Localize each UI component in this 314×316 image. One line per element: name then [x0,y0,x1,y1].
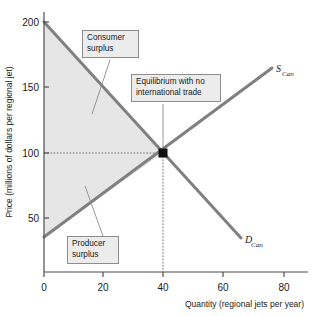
x-tick-label-20: 20 [97,282,109,293]
y-axis-title: Price (millions of dollars per regional … [4,66,14,217]
y-tick-label-50: 50 [28,213,40,224]
producer-surplus-callout: Producer surplus [67,236,119,264]
x-tick-label-40: 40 [157,282,169,293]
supply-curve-sublabel: Can [282,70,294,78]
consumer-surplus-callout: Consumer surplus [82,30,139,58]
y-tick-label-150: 150 [22,82,39,93]
y-tick-label-100: 100 [22,148,39,159]
x-tick-label-0: 0 [41,282,47,293]
x-axis-title: Quantity (regional jets per year) [185,299,304,309]
demand-curve-sublabel: Can [251,241,263,249]
y-tick-label-200: 200 [22,17,39,28]
supply-curve-label: S [276,63,281,74]
equilibrium-marker [159,149,168,158]
x-tick-label-80: 80 [278,282,290,293]
supply-demand-chart: 200 150 100 50 0 20 40 60 80 Quantity (r… [0,0,314,316]
equilibrium-callout: Equilibrium with no international trade [131,74,221,102]
x-tick-label-60: 60 [217,282,229,293]
chart-canvas: 200 150 100 50 0 20 40 60 80 Quantity (r… [0,0,314,316]
